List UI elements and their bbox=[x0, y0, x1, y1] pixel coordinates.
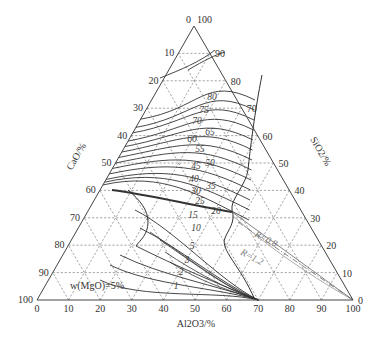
bottom-tick: 10 bbox=[64, 303, 74, 314]
bottom-tick: 20 bbox=[95, 303, 105, 314]
left-tick: 50 bbox=[102, 157, 112, 168]
right-tick: 20 bbox=[326, 240, 336, 251]
right-tick: 60 bbox=[263, 131, 273, 142]
contour-label: 1 bbox=[174, 281, 179, 291]
left-tick: 20 bbox=[149, 75, 159, 86]
contour-label: 60 bbox=[187, 134, 197, 144]
top-tick-sio2: 100 bbox=[197, 14, 212, 25]
contour-label: 3 bbox=[184, 255, 190, 265]
top-tick-cao: 0 bbox=[186, 14, 191, 25]
left-tick: 40 bbox=[117, 130, 127, 141]
contour-label: 80 bbox=[207, 92, 217, 102]
contour-label: 25 bbox=[195, 196, 205, 206]
bottom-tick: 90 bbox=[316, 303, 326, 314]
contour-label: 35 bbox=[205, 181, 216, 191]
right-tick: 30 bbox=[310, 213, 320, 224]
contour-label: 50 bbox=[205, 158, 215, 168]
contour-label: 10 bbox=[191, 223, 201, 233]
left-tick: 70 bbox=[70, 212, 80, 223]
left-tick: 100 bbox=[18, 294, 33, 305]
contour-label: 45 bbox=[191, 161, 201, 171]
left-tick: 30 bbox=[133, 102, 143, 113]
contour-label: 2 bbox=[179, 267, 184, 277]
right-tick: 10 bbox=[342, 268, 352, 279]
ratio-label-1-2: R=1.2 bbox=[238, 246, 265, 267]
ternary-diagram: 1020304050607080901000102030405060708090… bbox=[0, 0, 380, 342]
contour-label: 20 bbox=[211, 206, 221, 216]
contour-label: 40 bbox=[189, 174, 199, 184]
mgo-annotation: w(MgO)=5% bbox=[70, 280, 124, 292]
bottom-tick: 70 bbox=[253, 303, 263, 314]
contour-label: 75 bbox=[199, 105, 209, 115]
contour-label: 65 bbox=[205, 127, 215, 137]
bottom-axis-title: Al2O3/% bbox=[177, 318, 215, 329]
contour-label: 5 bbox=[190, 241, 195, 251]
right-tick: 0 bbox=[358, 295, 363, 306]
contour-label: 70 bbox=[192, 116, 202, 126]
viscosity-contours bbox=[100, 50, 353, 300]
right-tick: 70 bbox=[247, 103, 257, 114]
contour-labels: 8075706560555045403530252015105321 bbox=[174, 92, 221, 291]
left-tick: 10 bbox=[164, 47, 174, 58]
bottom-tick: 60 bbox=[222, 303, 232, 314]
left-tick: 90 bbox=[39, 267, 49, 278]
right-tick: 80 bbox=[231, 76, 241, 87]
bottom-tick: 40 bbox=[158, 303, 168, 314]
left-tick: 80 bbox=[54, 239, 64, 250]
right-tick: 40 bbox=[294, 185, 304, 196]
left-tick: 60 bbox=[86, 184, 96, 195]
bottom-tick: 0 bbox=[35, 303, 40, 314]
contour-label: 30 bbox=[190, 186, 201, 196]
contour-label: 15 bbox=[188, 210, 198, 220]
bottom-tick: 50 bbox=[190, 303, 200, 314]
right-tick: 90 bbox=[215, 48, 225, 59]
left-axis-title: CaO/% bbox=[64, 141, 88, 172]
right-tick: 50 bbox=[279, 158, 289, 169]
right-axis-title: SiO2/% bbox=[308, 135, 333, 168]
bottom-tick: 80 bbox=[285, 303, 295, 314]
bottom-tick: 30 bbox=[127, 303, 137, 314]
contour-label: 55 bbox=[195, 144, 205, 154]
ratio-label-0-8: R=0.8 bbox=[252, 228, 279, 249]
